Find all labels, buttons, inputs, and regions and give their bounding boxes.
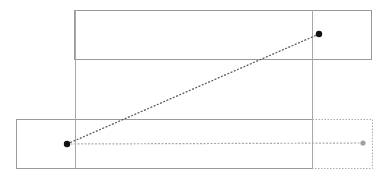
ghost-point-handle <box>360 140 365 145</box>
diagonal-connector[interactable] <box>67 34 319 144</box>
diagram-canvas <box>0 0 386 176</box>
end-point-handle[interactable] <box>316 31 322 37</box>
ghost-connector-preview <box>67 143 363 144</box>
start-point-handle[interactable] <box>64 141 70 147</box>
bottom-box[interactable] <box>17 120 313 169</box>
top-box[interactable] <box>75 11 372 60</box>
